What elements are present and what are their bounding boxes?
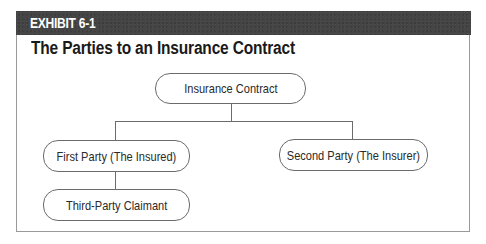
node-label: First Party (The Insured) (57, 149, 177, 164)
node-label: Second Party (The Insurer) (287, 148, 420, 163)
connector-to-second-party (352, 121, 353, 139)
exhibit-title: The Parties to an Insurance Contract (31, 38, 295, 59)
connector-to-first-party (115, 121, 116, 140)
node-label: Insurance Contract (184, 81, 277, 96)
node-insurance-contract: Insurance Contract (155, 73, 306, 104)
node-second-party: Second Party (The Insurer) (279, 139, 428, 171)
exhibit-header-bar: EXHIBIT 6-1 (16, 11, 471, 35)
node-label: Third-Party Claimant (66, 198, 167, 213)
connector-first-to-third (115, 172, 116, 189)
connector-horizontal (115, 121, 353, 122)
node-third-party-claimant: Third-Party Claimant (43, 189, 190, 221)
node-first-party: First Party (The Insured) (43, 140, 190, 172)
exhibit-label: EXHIBIT 6-1 (30, 15, 95, 31)
connector-root-down (231, 104, 232, 121)
